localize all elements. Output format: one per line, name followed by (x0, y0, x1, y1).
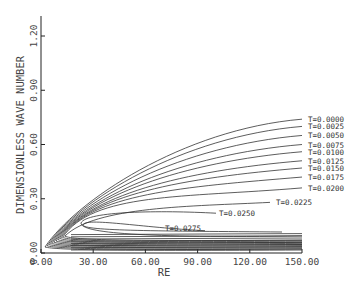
curve-label: T=0.0200 (308, 184, 345, 193)
y-axis-label: DIMENSIONLESS WAVE NUMBER (14, 55, 26, 214)
x-tick-label: 150.00 (285, 256, 320, 267)
stability-contour-chart: 0.0030.0060.0090.00120.00150.000.000.300… (0, 0, 362, 288)
curve-label: T=0.0100 (308, 148, 345, 157)
curve-label: T=0.0025 (308, 122, 344, 131)
curve-label: T=0.0250 (219, 209, 256, 218)
x-axis-label: RE (158, 266, 171, 278)
stability-curve (60, 177, 302, 243)
x-tick-label: 30.00 (79, 256, 108, 267)
curve-label: T=0.0050 (308, 131, 345, 140)
curve-label: T=0.0150 (308, 164, 345, 173)
stability-curve-lower-branch (71, 234, 302, 235)
x-tick-label: 120.00 (233, 256, 268, 267)
y-tick-label: 0.30 (28, 187, 39, 210)
y-tick-label: 0.00 (28, 241, 39, 264)
x-tick-label: 90.00 (183, 256, 212, 267)
x-tick-label: 60.00 (131, 256, 160, 267)
y-tick-label: 0.90 (28, 79, 39, 102)
curve-label: T=0.0225 (276, 198, 312, 207)
y-tick-label: 0.60 (28, 133, 39, 156)
curve-label: T=0.0275 (165, 224, 201, 233)
curve-label: T=0.0175 (308, 173, 344, 182)
y-tick-label: 1.20 (28, 24, 39, 47)
stability-curve-lower-branch (71, 238, 302, 239)
